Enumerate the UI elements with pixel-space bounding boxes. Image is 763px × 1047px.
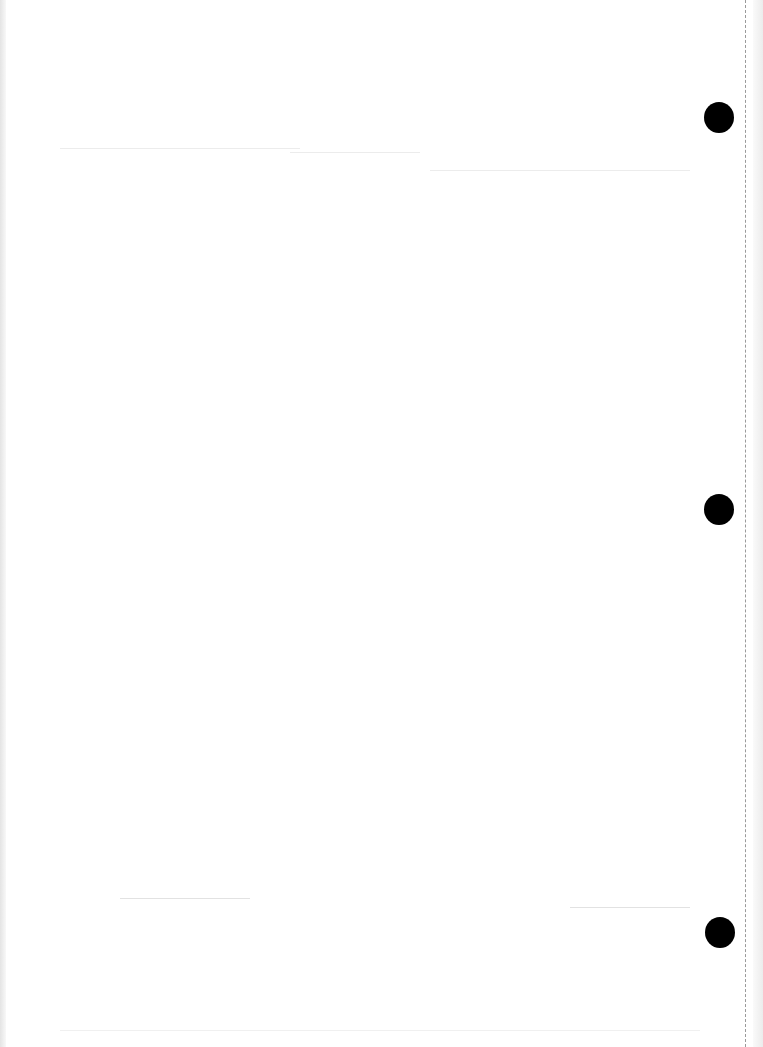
left-scan-edge [0,0,6,1047]
punch-hole-top [704,102,734,133]
scanned-page [0,0,763,1047]
punch-hole-bottom [705,917,735,948]
bleed-through-mark [60,1030,700,1031]
perforation-line [745,0,746,1047]
bleed-through-mark [290,152,420,153]
bleed-through-mark [120,898,250,899]
bleed-through-mark [570,907,690,908]
bleed-through-mark [180,148,300,149]
right-scan-edge [753,0,763,1047]
punch-hole-middle [704,494,734,525]
bleed-through-mark [430,170,690,171]
